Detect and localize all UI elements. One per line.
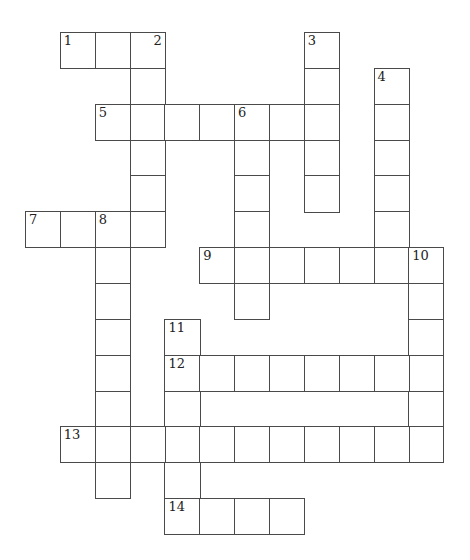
crossword-cell[interactable]: 12	[164, 355, 200, 392]
clue-number: 4	[378, 70, 386, 84]
crossword-cell[interactable]: 14	[164, 498, 200, 535]
crossword-cell[interactable]	[269, 355, 305, 392]
clue-number: 10	[412, 249, 429, 263]
clue-number: 11	[168, 321, 185, 335]
clue-number: 14	[168, 500, 185, 514]
clue-number: 5	[99, 106, 107, 120]
crossword-cell[interactable]	[95, 426, 131, 463]
crossword-cell[interactable]	[199, 355, 235, 392]
crossword-cell[interactable]	[60, 211, 96, 248]
clue-number: 7	[29, 213, 37, 227]
crossword-cell[interactable]	[164, 104, 200, 141]
clue-number: 3	[308, 34, 316, 48]
crossword-cell[interactable]	[374, 355, 410, 392]
crossword-cell[interactable]	[234, 426, 270, 463]
crossword-cell[interactable]	[95, 355, 131, 392]
crossword-cell[interactable]	[374, 104, 410, 141]
crossword-cell[interactable]: 13	[60, 426, 96, 463]
crossword-cell[interactable]: 10	[408, 247, 444, 284]
crossword-cell[interactable]	[304, 355, 340, 392]
crossword-cell[interactable]	[130, 104, 166, 141]
crossword-cell[interactable]	[304, 68, 340, 105]
crossword-cell[interactable]: 8	[95, 211, 131, 248]
crossword-cell[interactable]	[130, 68, 166, 105]
crossword-cell[interactable]	[304, 175, 340, 212]
crossword-cell[interactable]	[130, 211, 166, 248]
crossword-cell[interactable]	[234, 283, 270, 320]
crossword-cell[interactable]	[95, 391, 131, 428]
crossword-cell[interactable]	[304, 104, 340, 141]
crossword-cell[interactable]	[234, 355, 270, 392]
crossword-cell[interactable]	[339, 247, 375, 284]
crossword-cell[interactable]	[130, 140, 166, 177]
crossword-cell[interactable]	[374, 175, 410, 212]
crossword-cell[interactable]	[374, 426, 410, 463]
crossword-cell[interactable]	[304, 247, 340, 284]
crossword-cell[interactable]	[269, 247, 305, 284]
crossword-cell[interactable]	[234, 140, 270, 177]
clue-number: 1	[64, 34, 72, 48]
crossword-cell[interactable]	[164, 462, 200, 499]
crossword-cell[interactable]	[408, 319, 444, 356]
crossword-cell[interactable]	[234, 175, 270, 212]
crossword-cell[interactable]	[164, 391, 200, 428]
crossword-cell[interactable]	[408, 426, 444, 463]
crossword-cell[interactable]	[339, 426, 375, 463]
crossword-cell[interactable]	[408, 391, 444, 428]
crossword-cell[interactable]	[408, 283, 444, 320]
crossword-cell[interactable]	[130, 175, 166, 212]
clue-number: 12	[168, 357, 185, 371]
crossword-cell[interactable]: 7	[25, 211, 61, 248]
crossword-cell[interactable]	[199, 104, 235, 141]
crossword-cell[interactable]: 2	[130, 32, 166, 69]
crossword-cell[interactable]	[199, 498, 235, 535]
crossword-grid: 1234567891011121413	[0, 0, 470, 560]
crossword-cell[interactable]	[164, 426, 200, 463]
crossword-cell[interactable]: 6	[234, 104, 270, 141]
crossword-cell[interactable]	[304, 140, 340, 177]
crossword-cell[interactable]	[374, 211, 410, 248]
crossword-cell[interactable]	[408, 355, 444, 392]
crossword-cell[interactable]	[95, 32, 131, 69]
crossword-cell[interactable]: 9	[199, 247, 235, 284]
crossword-cell[interactable]	[234, 211, 270, 248]
clue-number: 2	[153, 34, 161, 48]
crossword-cell[interactable]	[95, 247, 131, 284]
clue-number: 6	[238, 106, 246, 120]
clue-number: 9	[203, 249, 211, 263]
crossword-cell[interactable]	[95, 319, 131, 356]
crossword-cell[interactable]	[374, 247, 410, 284]
crossword-cell[interactable]	[95, 462, 131, 499]
clue-number: 13	[64, 428, 81, 442]
crossword-cell[interactable]	[304, 426, 340, 463]
crossword-cell[interactable]: 3	[304, 32, 340, 69]
crossword-cell[interactable]	[95, 283, 131, 320]
crossword-cell[interactable]	[234, 247, 270, 284]
crossword-cell[interactable]	[130, 426, 166, 463]
crossword-cell[interactable]: 1	[60, 32, 96, 69]
crossword-cell[interactable]: 11	[164, 319, 200, 356]
crossword-cell[interactable]	[269, 104, 305, 141]
crossword-cell[interactable]	[269, 426, 305, 463]
crossword-cell[interactable]	[234, 498, 270, 535]
crossword-cell[interactable]	[374, 140, 410, 177]
crossword-cell[interactable]	[339, 355, 375, 392]
crossword-cell[interactable]: 5	[95, 104, 131, 141]
crossword-cell[interactable]	[199, 426, 235, 463]
clue-number: 8	[99, 213, 107, 227]
crossword-cell[interactable]	[269, 498, 305, 535]
crossword-cell[interactable]: 4	[374, 68, 410, 105]
